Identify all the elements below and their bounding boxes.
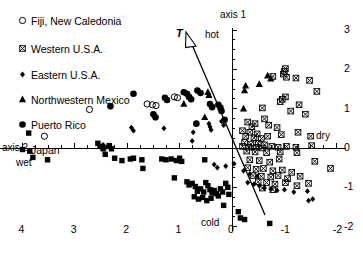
- axis1-label: axis 1: [220, 10, 246, 20]
- scatter-plot-figure: axis 1 hot cold axis 2 wet dry T 43210-1…: [0, 0, 363, 253]
- legend-item-label: Eastern U.S.A.: [31, 69, 100, 81]
- x-tick-label: -2: [333, 224, 342, 235]
- x-tick-label: 2: [123, 224, 129, 235]
- y-tick-label: -1: [344, 181, 353, 192]
- crossed-square-icon: [16, 42, 29, 55]
- x-tick-label: 0: [228, 224, 234, 235]
- t-vector-label: T: [176, 28, 183, 39]
- legend-item: Western U.S.A.: [16, 42, 103, 55]
- legend-item-label: Northwestern Mexico: [31, 94, 130, 106]
- legend-item: Northwestern Mexico: [16, 93, 130, 106]
- legend-item-label: Western U.S.A.: [31, 43, 103, 55]
- x-tick-label: 3: [71, 224, 77, 235]
- x-tick-label: -1: [280, 224, 289, 235]
- filled-circle-icon: [16, 118, 29, 131]
- y-tick-label: 3: [344, 24, 350, 35]
- small-diamond-icon: [16, 68, 29, 81]
- legend-item-label: Fiji, New Caledonia: [31, 15, 121, 27]
- x-tick-label: 4: [18, 224, 24, 235]
- hot-label: hot: [205, 30, 219, 40]
- filled-triangle-icon: [16, 93, 29, 106]
- x-tick-label: 1: [176, 224, 182, 235]
- dry-label: dry: [316, 131, 330, 141]
- legend-item-label: Japan: [31, 144, 60, 156]
- y-tick-label: 2: [344, 63, 350, 74]
- series-northwestern-mexico: [180, 72, 274, 120]
- y-tick-label: 1: [344, 103, 350, 114]
- legend-item: Fiji, New Caledonia: [16, 14, 121, 27]
- legend-item: Puerto Rico: [16, 118, 86, 131]
- open-circle-icon: [16, 14, 29, 27]
- y-tick-label: -2: [344, 221, 353, 232]
- filled-square-icon: [16, 143, 29, 156]
- y-tick-label: 0: [344, 142, 350, 153]
- legend-item: Japan: [16, 143, 60, 156]
- cold-label: cold: [201, 218, 219, 228]
- wet-label: wet: [16, 158, 32, 168]
- legend-item-label: Puerto Rico: [31, 119, 86, 131]
- legend-item: Eastern U.S.A.: [16, 68, 100, 81]
